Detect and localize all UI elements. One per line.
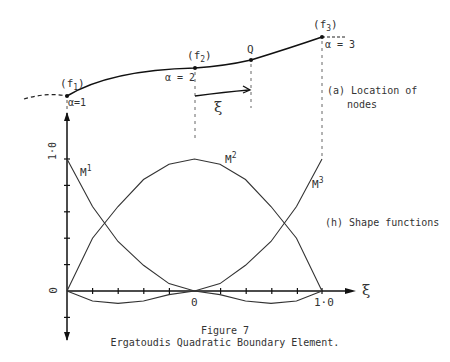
y-tick-top-label: 1·0 xyxy=(48,142,58,160)
part-a-label-line2: nodes xyxy=(347,100,377,110)
node-3-alpha: α = 3 xyxy=(325,40,355,50)
m2-base: M xyxy=(225,153,232,166)
curve-m3 xyxy=(67,159,322,303)
figure-number: Figure 7 xyxy=(0,325,450,337)
element-curve-dashed-start xyxy=(24,95,67,99)
node-1-sub: 1 xyxy=(73,83,78,92)
xi-arrowhead xyxy=(243,86,250,93)
label-m3: M3 xyxy=(312,177,323,190)
part-b-label: (h) Shape functions xyxy=(325,218,439,228)
label-m1: M1 xyxy=(80,165,91,178)
node-3-sub: 3 xyxy=(326,24,331,33)
node-1-alpha: α=1 xyxy=(68,98,86,108)
node-q-dot xyxy=(249,58,253,62)
m3-base: M xyxy=(312,178,319,191)
xi-arrow xyxy=(195,90,249,96)
x-axis-arrow xyxy=(345,288,356,294)
node-2-label: (f2) xyxy=(187,50,212,64)
curve-m1 xyxy=(67,159,322,303)
node-2-sub: 2 xyxy=(200,55,205,64)
x-tick-mid-label: 0 xyxy=(191,297,198,308)
m1-sup: 1 xyxy=(87,164,92,173)
xi-symbol: ξ xyxy=(214,100,222,115)
part-a-label: (a) Location of xyxy=(327,86,417,96)
node-2-alpha: α = 2 xyxy=(165,73,195,83)
label-m2: M2 xyxy=(225,152,236,165)
m1-base: M xyxy=(80,166,87,179)
curve-m2 xyxy=(67,159,322,291)
node-1-label: (f1) xyxy=(60,78,85,92)
m3-sup: 3 xyxy=(319,176,324,185)
y-tick-zero-label: 0 xyxy=(48,287,59,294)
node-2-dot xyxy=(193,66,197,70)
node-3-label: (f3) xyxy=(313,19,338,33)
figure-canvas xyxy=(0,0,450,362)
y-axis-arrow-up xyxy=(64,112,70,121)
node-q-label: Q xyxy=(247,44,254,55)
node-3-dot xyxy=(320,35,324,39)
figure-caption: Ergatoudis Quadratic Boundary Element. xyxy=(0,337,450,349)
m2-sup: 2 xyxy=(232,151,237,160)
x-tick-end-label: 1·0 xyxy=(314,297,334,308)
x-axis-xi-symbol: ξ xyxy=(362,283,370,298)
